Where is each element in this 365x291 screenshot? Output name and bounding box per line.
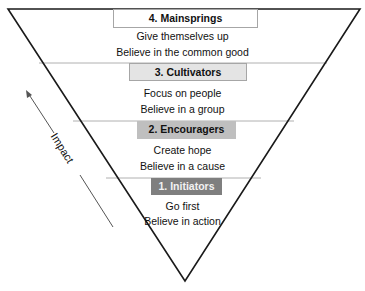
level-3-line-2: Believe in a group [0, 102, 365, 116]
level-1-title: 1. Initiators [158, 180, 214, 192]
level-2-line-2: Believe in a cause [0, 159, 365, 173]
level-1-line-1: Go first [0, 199, 365, 213]
level-4-line-1: Give themselves up [0, 29, 365, 43]
level-3-title: 3. Cultivators [155, 66, 222, 78]
level-4-title: 4. Mainsprings [149, 12, 223, 24]
level-1-line-2: Believe in action [0, 214, 365, 228]
level-2-title: 2. Encouragers [149, 123, 225, 135]
level-3-line-1: Focus on people [0, 86, 365, 100]
level-4-title-box: 4. Mainsprings [113, 9, 258, 28]
level-1-title-box: 1. Initiators [151, 178, 222, 195]
level-4-line-2: Believe in the common good [0, 45, 365, 59]
level-3-title-box: 3. Cultivators [129, 63, 247, 81]
level-2-title-box: 2. Encouragers [137, 121, 236, 139]
